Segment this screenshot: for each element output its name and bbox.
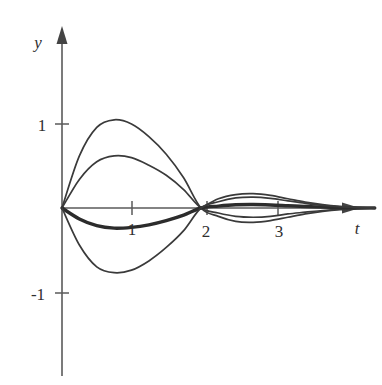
y-axis-label: y (32, 33, 42, 52)
x-tick-label-1: 1 (128, 220, 137, 239)
y-tick-label-neg1: -1 (31, 285, 45, 304)
damped-oscillation-plot: y t 1 -1 1 2 3 (0, 0, 382, 385)
y-axis-arrowhead (57, 26, 68, 44)
curve-layer (62, 120, 375, 273)
plot-figure: y t 1 -1 1 2 3 (0, 0, 382, 385)
axis-group (55, 26, 360, 376)
y-tick-label-1: 1 (38, 116, 47, 135)
x-tick-label-2: 2 (202, 222, 211, 241)
x-tick-label-3: 3 (275, 222, 284, 241)
x-axis-label: t (355, 219, 361, 238)
